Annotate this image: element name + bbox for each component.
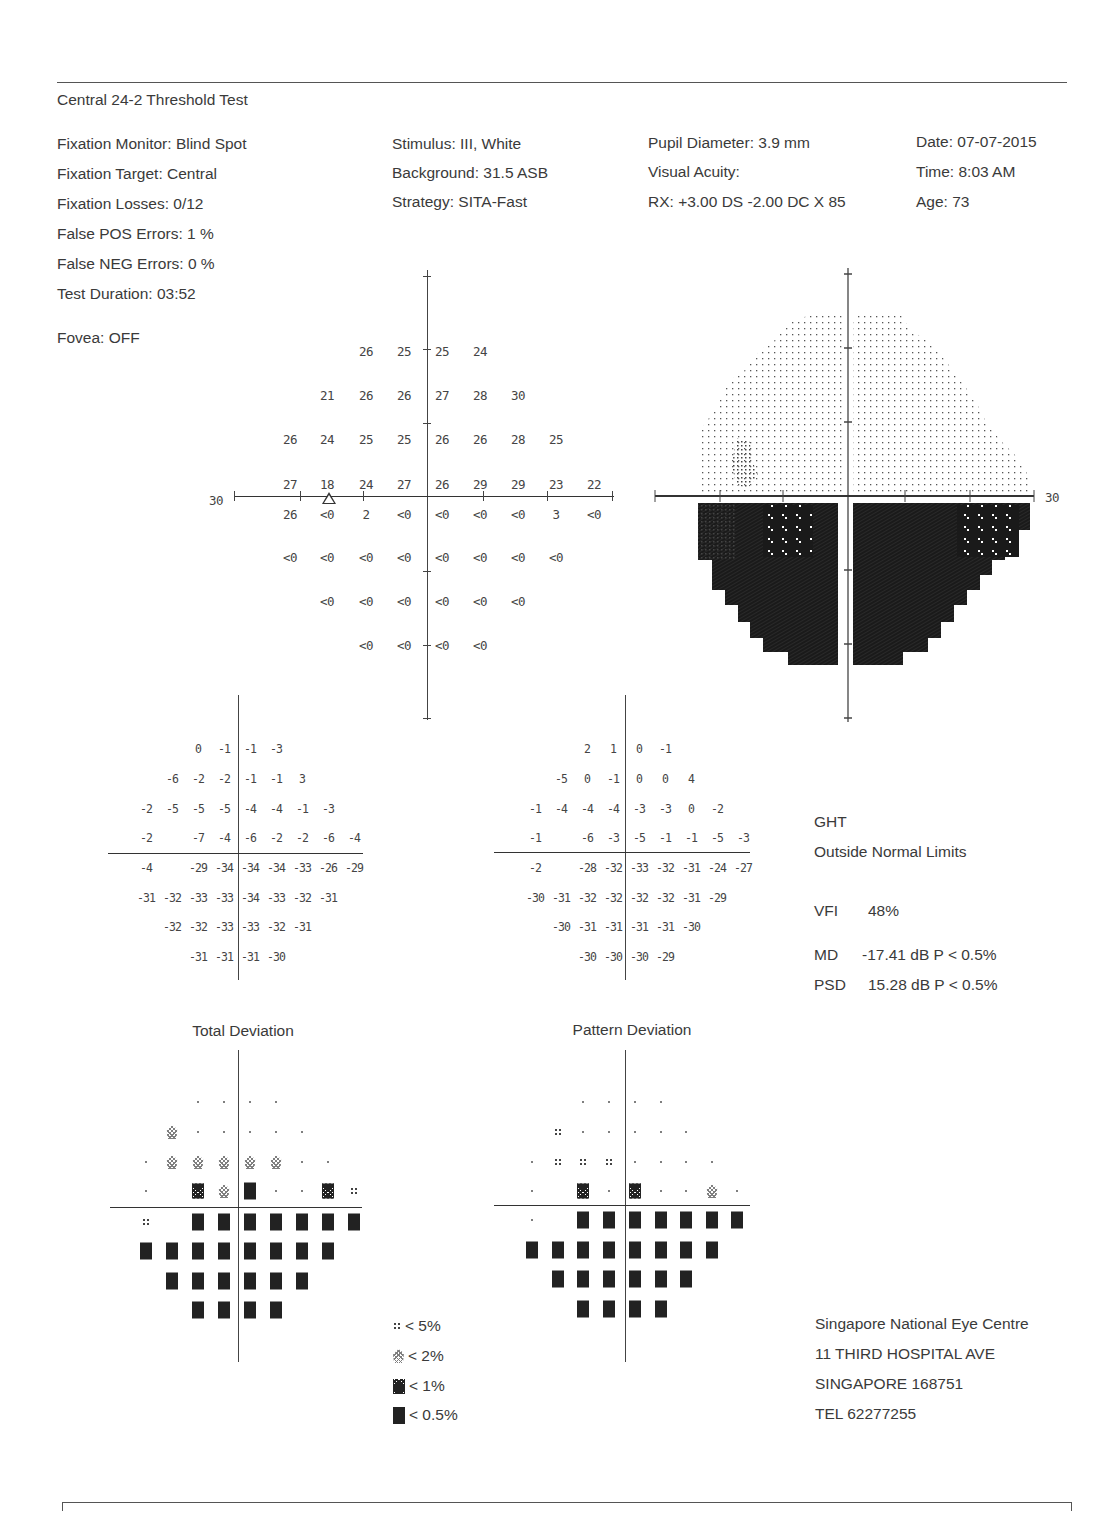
total-deviation-value: -3: [270, 742, 282, 756]
threshold-value: <0: [359, 594, 373, 609]
total-deviation-value: -34: [215, 861, 233, 875]
axis-tick: [423, 571, 431, 572]
prob-p05-icon: [218, 1302, 230, 1319]
prob-p2-icon: [167, 1125, 178, 1139]
pattern-deviation-value: -31: [656, 920, 674, 934]
fixation-losses: Fixation Losses: 0/12: [57, 195, 203, 213]
pattern-deviation-value: -1: [529, 831, 541, 845]
total-deviation-value: -33: [241, 920, 259, 934]
false-neg-errors: False NEG Errors: 0 %: [57, 255, 215, 273]
total-deviation-value: 0: [195, 742, 201, 756]
threshold-value: <0: [435, 507, 449, 522]
threshold-axis-label: 30: [209, 493, 223, 508]
prob-dot-icon: [275, 1131, 277, 1133]
total-deviation-value: -31: [319, 891, 337, 905]
prob-p05-icon: [603, 1301, 615, 1318]
threshold-value: 26: [359, 388, 373, 403]
pattern-deviation-value: -1: [659, 742, 671, 756]
threshold-value: 28: [511, 432, 525, 447]
prob-p05-icon: [296, 1273, 308, 1290]
false-pos-errors: False POS Errors: 1 %: [57, 225, 214, 243]
pattern-deviation-value: -31: [682, 861, 700, 875]
prob-05-icon: [393, 1407, 405, 1424]
threshold-value: 29: [511, 477, 525, 492]
prob-2-icon: [393, 1349, 404, 1363]
threshold-value: <0: [511, 507, 525, 522]
prob-p05-icon: [731, 1212, 743, 1229]
prob-p05-icon: [270, 1214, 282, 1231]
prob-p05-icon: [577, 1271, 589, 1288]
prob-dot-icon: [145, 1161, 147, 1163]
total-deviation-value: -32: [189, 920, 207, 934]
total-deviation-value: -2: [270, 831, 282, 845]
visual-acuity: Visual Acuity:: [648, 163, 740, 181]
pattern-deviation-value: 0: [636, 772, 642, 786]
threshold-value: <0: [397, 638, 411, 653]
pattern-deviation-value: 2: [584, 742, 590, 756]
pattern-deviation-value: -32: [578, 891, 596, 905]
pattern-deviation-value: -27: [734, 861, 752, 875]
pattern-deviation-value: -3: [633, 802, 645, 816]
threshold-value: <0: [511, 594, 525, 609]
total-deviation-value: -30: [267, 950, 285, 964]
pattern-deviation-value: -1: [659, 831, 671, 845]
total-deviation-value: -34: [241, 891, 259, 905]
legend-label: < 0.5%: [409, 1406, 458, 1424]
total-deviation-value: -29: [345, 861, 363, 875]
prob-dot-icon: [736, 1190, 738, 1192]
psd-label: PSD: [814, 976, 846, 994]
threshold-value: <0: [283, 550, 297, 565]
threshold-value: <0: [473, 507, 487, 522]
td-v-axis: [238, 695, 239, 980]
prob-p05-icon: [680, 1242, 692, 1259]
pattern-deviation-value: -2: [529, 861, 541, 875]
total-deviation-value: -1: [296, 802, 308, 816]
bottom-rule: [62, 1502, 1072, 1503]
prob-dot-icon: [327, 1161, 329, 1163]
legend-label: < 2%: [408, 1347, 444, 1365]
threshold-value: 27: [435, 388, 449, 403]
pattern-deviation-value: -1: [685, 831, 697, 845]
prob-dot-icon: [634, 1131, 636, 1133]
pattern-deviation-value: -6: [581, 831, 593, 845]
prob-dot-icon: [531, 1190, 533, 1192]
total-deviation-value: -34: [241, 861, 259, 875]
pattern-deviation-value: -3: [607, 831, 619, 845]
total-deviation-value: -33: [215, 920, 233, 934]
prob-p05-icon: [140, 1243, 152, 1260]
pattern-deviation-value: -32: [656, 861, 674, 875]
total-deviation-value: -32: [163, 891, 181, 905]
prob-p05-icon: [603, 1242, 615, 1259]
threshold-value: 25: [397, 344, 411, 359]
pattern-deviation-value: -29: [708, 891, 726, 905]
prob-p05-icon: [218, 1214, 230, 1231]
threshold-value: 26: [283, 432, 297, 447]
ght-label: GHT: [814, 813, 847, 831]
axis-tick: [423, 645, 431, 646]
total-deviation-value: -3: [322, 802, 334, 816]
prob-p05-icon: [296, 1214, 308, 1231]
prob-dot-icon: [685, 1131, 687, 1133]
fixation-monitor: Fixation Monitor: Blind Spot: [57, 135, 247, 153]
prob-p05-icon: [680, 1271, 692, 1288]
test-title: Central 24-2 Threshold Test: [57, 91, 248, 109]
pattern-deviation-value: 4: [688, 772, 694, 786]
institution-city: SINGAPORE 168751: [815, 1375, 963, 1393]
top-rule: [57, 82, 1067, 83]
threshold-value: 24: [320, 432, 334, 447]
threshold-value: 25: [397, 432, 411, 447]
prob-1-icon: [393, 1379, 405, 1394]
prob-p05-icon: [629, 1242, 641, 1259]
threshold-value: <0: [587, 507, 601, 522]
date: Date: 07-07-2015: [916, 133, 1037, 151]
total-deviation-value: -33: [189, 891, 207, 905]
pattern-deviation-value: -31: [604, 920, 622, 934]
axis-tick: [423, 718, 431, 719]
prob-p2-icon: [707, 1184, 718, 1198]
prob-p05-icon: [244, 1302, 256, 1319]
total-deviation-value: -6: [322, 831, 334, 845]
threshold-value: 25: [359, 432, 373, 447]
institution-tel: TEL 62277255: [815, 1405, 916, 1423]
total-deviation-value: -32: [293, 891, 311, 905]
pattern-deviation-value: -3: [737, 831, 749, 845]
